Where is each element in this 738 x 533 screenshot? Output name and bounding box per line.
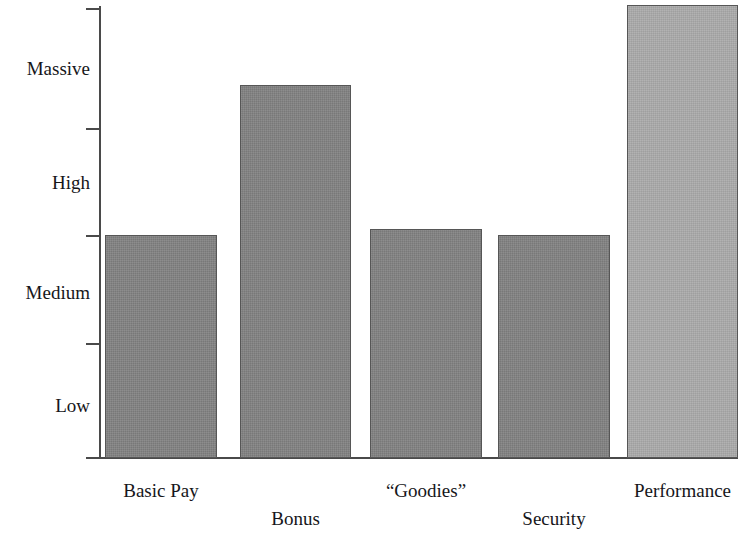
category-label: Security <box>498 509 610 528</box>
category-label: Bonus <box>240 509 351 528</box>
y-axis-tick <box>86 343 101 345</box>
bar-security <box>498 235 610 458</box>
y-axis-tick <box>86 128 101 130</box>
y-axis-label: Massive <box>27 59 90 78</box>
bar-bonus <box>240 85 351 458</box>
y-axis-label: High <box>52 173 90 192</box>
y-axis-label: Medium <box>26 283 90 302</box>
bar-basic-pay <box>105 235 217 458</box>
category-label: Basic Pay <box>105 481 217 500</box>
y-axis-tick <box>86 235 101 237</box>
bar-goodies <box>370 229 482 458</box>
category-label: Performance <box>627 481 738 500</box>
bar-performance <box>627 5 738 458</box>
category-label: “Goodies” <box>370 481 482 500</box>
chart-page: MassiveHighMediumLow Basic PayBonus“Good… <box>0 0 738 533</box>
y-axis-label: Low <box>55 396 90 415</box>
y-axis-tick <box>86 8 101 10</box>
y-axis-line <box>99 6 101 459</box>
y-axis-tick <box>86 457 101 459</box>
